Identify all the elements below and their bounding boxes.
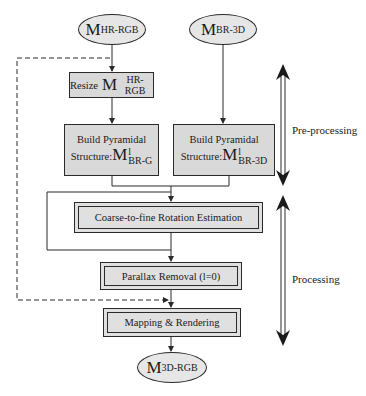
rotation-estimation-box: Coarse-to-fine Rotation Estimation bbox=[74, 202, 263, 233]
pyramid-right-prefix: Structure: bbox=[181, 151, 222, 162]
resize-prefix: Resize bbox=[70, 80, 98, 91]
resize-box: Resize MHR-RGB bbox=[69, 72, 154, 98]
parallax-removal-box: Parallax Removal (l=0) bbox=[100, 262, 242, 290]
rotation-estimation-label: Coarse-to-fine Rotation Estimation bbox=[95, 212, 243, 223]
mapping-rendering-label: Mapping & Rendering bbox=[124, 317, 219, 328]
pyramid-left-subscript: BR-G bbox=[128, 156, 152, 166]
input-br-3d-ellipse: MBR-3D bbox=[189, 14, 257, 45]
input-hr-rgb-ellipse: MHR-RGB bbox=[78, 14, 146, 45]
output-subscript: 3D-RGB bbox=[162, 362, 198, 373]
pyramid-right-box: Build Pyramidal Structure:MlBR-3D bbox=[173, 124, 275, 176]
processing-double-arrow bbox=[276, 195, 290, 346]
output-symbol: M bbox=[146, 358, 161, 378]
input-hr-rgb-symbol: M bbox=[86, 20, 101, 40]
resize-symbol: M bbox=[102, 75, 117, 95]
input-br-3d-symbol: M bbox=[201, 20, 216, 40]
processing-label: Processing bbox=[292, 273, 340, 285]
preprocessing-double-arrow bbox=[276, 64, 290, 186]
pyramid-left-prefix: Structure: bbox=[71, 151, 112, 162]
input-hr-rgb-subscript: HR-RGB bbox=[101, 24, 139, 35]
output-3d-rgb-ellipse: M3D-RGB bbox=[137, 352, 207, 383]
input-br-3d-subscript: BR-3D bbox=[216, 24, 245, 35]
merge-line bbox=[112, 176, 229, 186]
preprocessing-label: Pre-processing bbox=[292, 124, 357, 136]
pyramid-right-symbol: M bbox=[222, 145, 237, 164]
pyramid-left-box: Build Pyramidal Structure:MlBR-G bbox=[64, 124, 159, 176]
pyramid-right-subscript: BR-3D bbox=[238, 156, 267, 166]
resize-subscript: HR-RGB bbox=[117, 74, 153, 96]
parallax-removal-label: Parallax Removal (l=0) bbox=[122, 271, 221, 282]
mapping-rendering-box: Mapping & Rendering bbox=[103, 308, 241, 337]
pyramid-left-symbol: M bbox=[112, 145, 127, 164]
